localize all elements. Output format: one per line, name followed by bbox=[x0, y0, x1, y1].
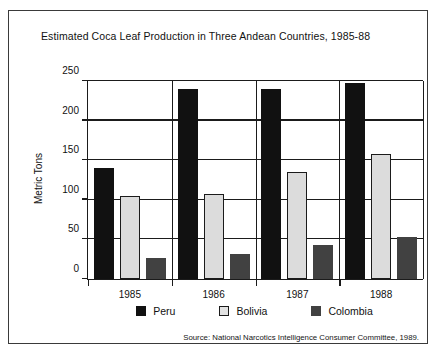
chart-legend: PeruBoliviaColombia bbox=[87, 305, 422, 317]
bar-peru-1985 bbox=[94, 168, 114, 279]
bar-peru-1987 bbox=[261, 89, 281, 279]
legend-item-peru: Peru bbox=[136, 305, 175, 317]
bar-peru-1986 bbox=[178, 89, 198, 279]
x-tick-1987 bbox=[256, 279, 257, 286]
legend-swatch-peru-icon bbox=[136, 306, 146, 316]
x-axis-label-1987: 1987 bbox=[286, 289, 308, 300]
legend-label-bolivia: Bolivia bbox=[236, 305, 267, 317]
x-axis-label-1988: 1988 bbox=[370, 289, 392, 300]
x-tick-1988 bbox=[339, 279, 340, 286]
bar-bolivia-1988 bbox=[371, 154, 391, 279]
y-tick-label-250: 250 bbox=[62, 65, 79, 76]
bar-peru-1988 bbox=[345, 83, 365, 279]
legend-item-bolivia: Bolivia bbox=[219, 305, 267, 317]
bar-group-1985: 1985 bbox=[88, 81, 172, 279]
bar-group-1986: 1986 bbox=[172, 81, 256, 279]
legend-swatch-colombia-icon bbox=[311, 306, 321, 316]
bar-colombia-1985 bbox=[146, 258, 166, 279]
x-axis-label-1985: 1985 bbox=[119, 289, 141, 300]
bar-bolivia-1986 bbox=[204, 194, 224, 279]
y-tick-label-200: 200 bbox=[62, 104, 79, 115]
legend-label-colombia: Colombia bbox=[328, 305, 372, 317]
legend-item-colombia: Colombia bbox=[311, 305, 372, 317]
bar-group-1988: 1988 bbox=[339, 81, 423, 279]
bar-colombia-1987 bbox=[313, 245, 333, 279]
legend-swatch-bolivia-icon bbox=[219, 306, 229, 316]
chart-figure: Estimated Coca Leaf Production in Three … bbox=[8, 10, 428, 344]
y-axis-label: Metric Tons bbox=[33, 134, 44, 224]
x-tick-1986 bbox=[172, 279, 173, 286]
bar-bolivia-1985 bbox=[120, 196, 140, 279]
source-note: Source: National Narcotics Intelligence … bbox=[183, 333, 419, 342]
y-tick-label-0: 0 bbox=[73, 263, 79, 274]
y-tick-label-150: 150 bbox=[62, 144, 79, 155]
x-axis-label-1986: 1986 bbox=[203, 289, 225, 300]
chart-title: Estimated Coca Leaf Production in Three … bbox=[41, 30, 370, 42]
x-tick-1985 bbox=[88, 279, 89, 286]
bar-bolivia-1987 bbox=[287, 172, 307, 279]
bar-colombia-1988 bbox=[397, 237, 417, 279]
y-tick-label-50: 50 bbox=[68, 223, 79, 234]
legend-label-peru: Peru bbox=[153, 305, 175, 317]
plot-area: 050100150200250 1985198619871988 bbox=[87, 81, 423, 280]
y-tick-label-100: 100 bbox=[62, 183, 79, 194]
bar-colombia-1986 bbox=[230, 254, 250, 279]
bar-group-1987: 1987 bbox=[256, 81, 340, 279]
